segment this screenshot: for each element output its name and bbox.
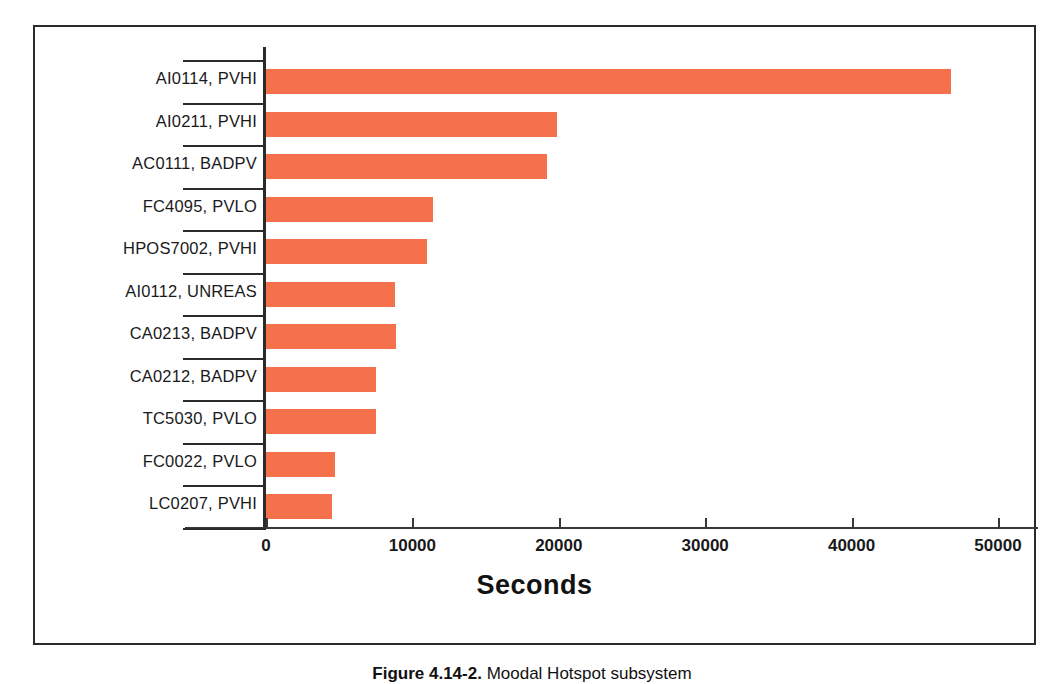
bar-row: AI0211, PVHI	[35, 103, 1034, 146]
category-label: TC5030, PVLO	[35, 409, 257, 428]
bar-row: CA0213, BADPV	[35, 315, 1034, 358]
category-tick	[183, 188, 266, 190]
bar-row: LC0207, PVHI	[35, 485, 1034, 528]
bar-row: AC0111, BADPV	[35, 145, 1034, 188]
x-axis-tick-label: 0	[261, 536, 270, 556]
bar	[266, 282, 395, 307]
category-label: AI0114, PVHI	[35, 69, 257, 88]
category-tick	[183, 230, 266, 232]
bar-row: CA0212, BADPV	[35, 358, 1034, 401]
category-tick	[183, 60, 266, 62]
caption-label: Figure 4.14-2.	[372, 664, 482, 683]
x-axis-tick-label: 20000	[535, 536, 582, 556]
x-axis-tick	[705, 518, 707, 529]
category-label: LC0207, PVHI	[35, 494, 257, 513]
category-label: CA0212, BADPV	[35, 367, 257, 386]
bar	[266, 409, 376, 434]
category-tick	[183, 443, 266, 445]
bar-row: FC4095, PVLO	[35, 188, 1034, 231]
category-label: FC0022, PVLO	[35, 452, 257, 471]
figure-caption: Figure 4.14-2. Moodal Hotspot subsystem	[0, 664, 1064, 684]
bar	[266, 324, 396, 349]
category-tick	[183, 400, 266, 402]
bar	[266, 112, 557, 137]
x-axis-tick	[412, 518, 414, 529]
x-axis-tick	[559, 518, 561, 529]
category-tick	[183, 273, 266, 275]
category-label: AC0111, BADPV	[35, 154, 257, 173]
category-label: AI0211, PVHI	[35, 112, 257, 131]
x-axis-tick-label: 50000	[974, 536, 1021, 556]
bar	[266, 452, 335, 477]
category-tick	[183, 103, 266, 105]
category-label: AI0112, UNREAS	[35, 282, 257, 301]
x-axis-tick-label: 40000	[828, 536, 875, 556]
x-axis-tick	[852, 518, 854, 529]
bar-row: AI0114, PVHI	[35, 60, 1034, 103]
bar-row: HPOS7002, PVHI	[35, 230, 1034, 273]
category-tick	[183, 485, 266, 487]
x-axis-tick-label: 30000	[682, 536, 729, 556]
category-tick	[183, 358, 266, 360]
plot-area: AI0114, PVHIAI0211, PVHIAC0111, BADPVFC4…	[35, 27, 1034, 643]
category-label: HPOS7002, PVHI	[35, 239, 257, 258]
x-axis-tick	[998, 518, 1000, 529]
bar	[266, 197, 433, 222]
bar	[266, 69, 951, 94]
bar-row: AI0112, UNREAS	[35, 273, 1034, 316]
bar	[266, 154, 547, 179]
bar-row: FC0022, PVLO	[35, 443, 1034, 486]
x-axis-tick-label: 10000	[389, 536, 436, 556]
category-label: CA0213, BADPV	[35, 324, 257, 343]
caption-text: Moodal Hotspot subsystem	[487, 664, 692, 683]
bar	[266, 239, 427, 264]
category-tick	[183, 528, 266, 530]
category-tick	[183, 145, 266, 147]
category-label: FC4095, PVLO	[35, 197, 257, 216]
bar	[266, 494, 332, 519]
chart-frame: AI0114, PVHIAI0211, PVHIAC0111, BADPVFC4…	[33, 25, 1036, 645]
category-tick	[183, 315, 266, 317]
bar	[266, 367, 376, 392]
x-axis-title: Seconds	[35, 570, 1034, 601]
bar-row: TC5030, PVLO	[35, 400, 1034, 443]
x-axis-tick	[266, 518, 268, 529]
